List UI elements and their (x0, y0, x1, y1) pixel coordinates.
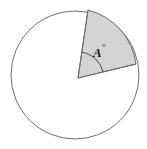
degree-symbol-icon: ° (102, 42, 106, 52)
figure-container: A ° (0, 0, 147, 149)
circle-sector-diagram: A ° (0, 0, 147, 149)
angle-label: A (92, 45, 102, 60)
